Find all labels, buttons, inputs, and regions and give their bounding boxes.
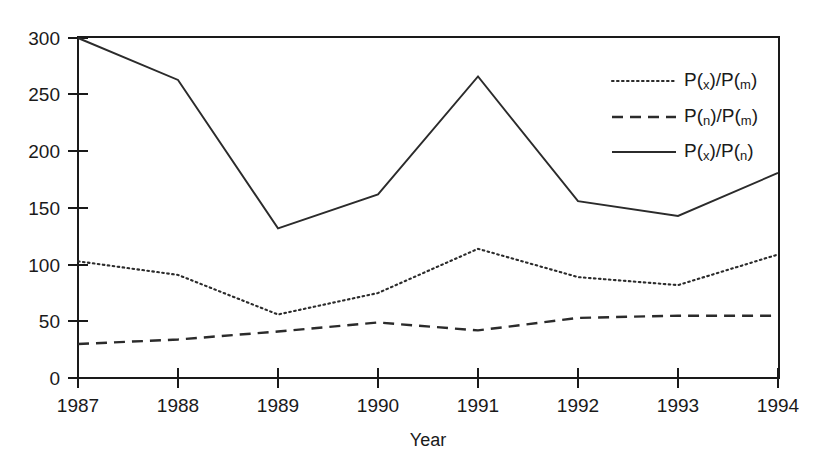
x-tick-label-1993: 1993 xyxy=(657,395,699,416)
x-tick-label-1992: 1992 xyxy=(557,395,599,416)
y-tick-labels: 0 50 100 150 200 250 300 xyxy=(28,28,60,389)
x-tick-label-1988: 1988 xyxy=(157,395,199,416)
legend-label-pn-pm: P(n)/P(m) xyxy=(684,105,758,128)
y-tick-label-300: 300 xyxy=(28,28,60,49)
y-tick-label-250: 250 xyxy=(28,84,60,105)
x-axis-title: Year xyxy=(410,430,446,450)
x-tick-label-1994: 1994 xyxy=(757,395,800,416)
x-tick-labels: 1987 1988 1989 1990 1991 1992 1993 1994 xyxy=(57,395,800,416)
x-tick-label-1990: 1990 xyxy=(357,395,399,416)
x-tick-label-1991: 1991 xyxy=(457,395,499,416)
chart-figure: 0 50 100 150 200 250 300 1987 1988 1989 … xyxy=(0,0,823,472)
series-line-px-pn xyxy=(78,38,778,228)
line-chart: 0 50 100 150 200 250 300 1987 1988 1989 … xyxy=(0,0,823,472)
legend: P(x)/P(m) P(n)/P(m) P(x)/P(n) xyxy=(612,69,758,163)
legend-label-px-pm: P(x)/P(m) xyxy=(684,69,757,92)
legend-label-px-pn: P(x)/P(n) xyxy=(684,140,754,163)
y-tick-label-150: 150 xyxy=(28,198,60,219)
series-line-px-pm xyxy=(78,249,778,315)
x-tick-label-1989: 1989 xyxy=(257,395,299,416)
y-tick-label-0: 0 xyxy=(49,368,60,389)
y-tick-label-50: 50 xyxy=(39,311,60,332)
y-tick-label-100: 100 xyxy=(28,255,60,276)
series-line-pn-pm xyxy=(78,316,778,344)
x-tick-label-1987: 1987 xyxy=(57,395,99,416)
y-tick-label-200: 200 xyxy=(28,141,60,162)
